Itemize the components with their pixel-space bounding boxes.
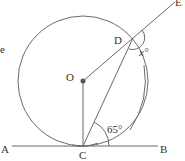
label-o: O [66, 71, 74, 83]
label-a: A [1, 143, 9, 155]
geometry-diagram: D E O C A B 65° x° e [0, 0, 185, 161]
center-point-o [81, 79, 86, 84]
label-d: D [114, 34, 122, 46]
label-c: C [79, 149, 86, 161]
relation-arrow [130, 65, 145, 130]
diagram-canvas: D E O C A B 65° x° e [0, 0, 185, 161]
line-de [133, 2, 175, 38]
angle-label-65: 65° [107, 123, 122, 135]
angle-label-x: x° [138, 46, 149, 58]
radius-od [83, 38, 133, 81]
stray-letter: e [0, 43, 5, 55]
label-b: B [160, 143, 167, 155]
label-e: E [175, 0, 182, 8]
